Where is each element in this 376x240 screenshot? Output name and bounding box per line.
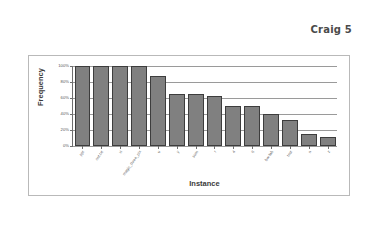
bar-slot: vi (111, 66, 130, 146)
bar[interactable] (301, 134, 317, 146)
bar[interactable] (150, 76, 166, 146)
x-axis-tick-label: test (286, 150, 293, 158)
bar[interactable] (93, 66, 109, 146)
x-axis-tick-label: n (307, 150, 312, 154)
x-axis-tick-label: r (214, 150, 218, 153)
x-axis-tick-mark (328, 146, 329, 149)
bar-slot: bw-lab (262, 66, 281, 146)
x-axis-tick-label: bw-lab (264, 150, 274, 162)
bar[interactable] (244, 106, 260, 146)
gridline (73, 146, 337, 147)
bar-slot: ppt (73, 66, 92, 146)
bar-slot: 4 (224, 66, 243, 146)
x-axis-tick-mark (214, 146, 215, 149)
x-axis-tick-label: out.txt (95, 150, 105, 161)
x-axis-tick-mark (101, 146, 102, 149)
bar-slot: y (167, 66, 186, 146)
bar-slot: out.txt (92, 66, 111, 146)
plot-area: 0%20%40%60%80%100% pptout.txtvimagic_thr… (72, 66, 337, 147)
x-axis-tick-mark (271, 146, 272, 149)
bar[interactable] (188, 94, 204, 146)
x-axis-tick-label: sum (191, 150, 199, 158)
y-axis-tick-label: 0% (63, 144, 69, 148)
x-axis-tick-mark (290, 146, 291, 149)
page-title: Craig 5 (311, 24, 352, 35)
x-axis-tick-mark (158, 146, 159, 149)
bar[interactable] (320, 137, 336, 146)
x-axis-tick-label: vi (118, 150, 123, 155)
bar-slot: r (205, 66, 224, 146)
y-axis-title: Frequency (36, 68, 45, 106)
x-axis-tick-mark (82, 146, 83, 149)
bar[interactable] (282, 120, 298, 146)
bar-slot: z (318, 66, 337, 146)
x-axis-tick-label: z (326, 150, 330, 154)
y-axis-tick-mark (70, 146, 73, 147)
x-axis-title: Instance (72, 179, 337, 188)
bar-series: pptout.txtvimagic_three_pixuysumr46bw-la… (73, 66, 337, 146)
bar[interactable] (169, 94, 185, 146)
y-axis-tick-label: 40% (61, 112, 69, 116)
bar[interactable] (263, 114, 279, 146)
bar[interactable] (207, 96, 223, 146)
x-axis-tick-mark (120, 146, 121, 149)
x-axis-tick-mark (233, 146, 234, 149)
x-axis-tick-mark (139, 146, 140, 149)
x-axis-tick-label: ppt (79, 150, 85, 157)
x-axis-tick-mark (252, 146, 253, 149)
x-axis-tick-label: 4 (232, 150, 237, 154)
x-axis-tick-label: u (157, 150, 162, 154)
y-axis-tick-label: 80% (61, 80, 69, 84)
x-axis-tick-mark (309, 146, 310, 149)
bar-slot: sum (186, 66, 205, 146)
bar-slot: magic_three_pix (130, 66, 149, 146)
y-axis-tick-label: 100% (58, 64, 69, 68)
bar[interactable] (131, 66, 147, 146)
x-axis-tick-label: y (176, 150, 180, 154)
x-axis-tick-label: magic_three_pix (122, 150, 142, 176)
bar-slot: u (148, 66, 167, 146)
y-axis-tick-label: 60% (61, 96, 69, 100)
x-axis-tick-label: 6 (251, 150, 256, 154)
bar[interactable] (75, 66, 91, 146)
y-axis-tick-label: 20% (61, 128, 69, 132)
bar[interactable] (112, 66, 128, 146)
bar-slot: 6 (243, 66, 262, 146)
x-axis-tick-mark (177, 146, 178, 149)
bar-slot: n (299, 66, 318, 146)
bar[interactable] (225, 106, 241, 146)
bar-slot: test (280, 66, 299, 146)
chart-frame: Frequency 0%20%40%60%80%100% pptout.txtv… (28, 55, 350, 196)
